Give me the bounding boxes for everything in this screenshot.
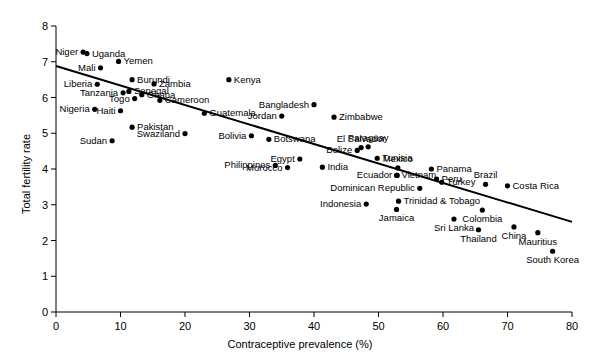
point-label: Zimbabwe (339, 112, 383, 122)
point-label: Mali (78, 63, 95, 73)
point-label: Sudan (80, 136, 107, 146)
x-tick-label: 0 (53, 321, 59, 332)
point-label: Turkey (447, 177, 476, 187)
data-point (535, 230, 540, 235)
data-point (311, 102, 316, 107)
y-axis-title: Total fertility rate (20, 104, 32, 244)
x-tick-label: 60 (437, 321, 449, 332)
point-label: Niger (55, 47, 78, 57)
y-tick-label: 6 (30, 92, 48, 103)
data-point (550, 249, 555, 254)
y-tick-label: 1 (30, 271, 48, 282)
point-label: India (327, 162, 348, 172)
point-label: Bolivia (218, 131, 246, 141)
point-label: Dominican Republic (330, 183, 414, 193)
data-point (375, 156, 380, 161)
y-tick-label: 2 (30, 235, 48, 246)
point-label: Brazil (474, 170, 498, 180)
point-label: Mauritius (519, 237, 558, 247)
data-point (132, 96, 137, 101)
y-tick-label: 7 (30, 56, 48, 67)
point-label: Uganda (92, 49, 125, 59)
point-label: Nigeria (60, 104, 90, 114)
data-point (118, 108, 123, 113)
point-label: Botswana (274, 134, 316, 144)
data-point (285, 165, 290, 170)
data-point (266, 137, 271, 142)
point-label: Haiti (96, 106, 115, 116)
point-label: Mexico (383, 154, 413, 164)
data-point (226, 77, 231, 82)
y-tick-label: 8 (30, 21, 48, 32)
data-point (366, 144, 371, 149)
data-point (480, 208, 485, 213)
point-label: Sri Lanka (434, 223, 474, 233)
data-point (364, 201, 369, 206)
data-point (182, 131, 187, 136)
point-label: Thailand (460, 234, 496, 244)
data-point (396, 199, 401, 204)
data-point (483, 182, 488, 187)
data-point (279, 113, 284, 118)
point-label: Cameroon (165, 95, 209, 105)
scatter-plot-figure: 01234567801020304050607080 NigerUgandaMa… (0, 0, 600, 364)
x-tick-label: 50 (372, 321, 384, 332)
x-tick-label: 30 (243, 321, 255, 332)
point-label: Paraguay (348, 133, 389, 143)
data-point (297, 156, 302, 161)
data-point (249, 133, 254, 138)
point-label: Indonesia (320, 199, 361, 209)
point-label: South Korea (526, 255, 579, 265)
data-point (451, 216, 456, 221)
x-tick-label: 40 (308, 321, 320, 332)
data-point (511, 224, 516, 229)
data-point (98, 65, 103, 70)
point-label: Ecuador (357, 170, 392, 180)
data-point (417, 186, 422, 191)
point-label: Vietnam (402, 170, 437, 180)
y-tick-label: 5 (30, 128, 48, 139)
data-point (110, 138, 115, 143)
data-point (505, 183, 510, 188)
data-point (130, 125, 135, 130)
point-label: Kenya (234, 75, 261, 85)
point-label: Belize (326, 145, 352, 155)
point-label: Colombia (462, 214, 502, 224)
data-point (355, 148, 360, 153)
point-label: Costa Rica (513, 181, 559, 191)
y-tick-label: 4 (30, 164, 48, 175)
data-point (395, 165, 400, 170)
data-point (476, 227, 481, 232)
data-point (331, 115, 336, 120)
point-label: Zambia (159, 79, 191, 89)
point-label: Morocco (246, 163, 282, 173)
point-label: Jamaica (379, 213, 414, 223)
data-point (202, 111, 207, 116)
point-label: Swaziland (137, 129, 180, 139)
x-axis-title: Contraceptive prevalence (%) (0, 338, 600, 350)
x-tick-label: 70 (501, 321, 513, 332)
plot-canvas (0, 0, 600, 364)
data-point (395, 173, 400, 178)
data-point (84, 51, 89, 56)
point-label: Yemen (124, 56, 153, 66)
data-point (116, 59, 121, 64)
data-point (394, 207, 399, 212)
data-point (320, 165, 325, 170)
y-tick-label: 3 (30, 199, 48, 210)
x-tick-label: 10 (114, 321, 126, 332)
point-label: Jordan (248, 111, 277, 121)
x-tick-label: 80 (566, 321, 578, 332)
point-label: Togo (109, 94, 130, 104)
data-point (130, 77, 135, 82)
point-label: Trinidad & Tobago (403, 196, 480, 206)
y-tick-label: 0 (30, 307, 48, 318)
point-label: Bangladesh (259, 100, 309, 110)
x-tick-label: 20 (179, 321, 191, 332)
